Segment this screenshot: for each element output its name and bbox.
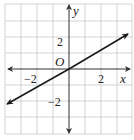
tick-label-x-pos: 2 xyxy=(98,72,104,86)
tick-label-y-neg: −2 xyxy=(48,95,61,109)
tick-label-y-pos: 2 xyxy=(57,35,63,49)
origin-label: O xyxy=(55,54,65,69)
y-axis-label: y xyxy=(71,3,79,18)
x-axis-label: x xyxy=(119,71,126,86)
tick-label-x-neg: −2 xyxy=(24,72,37,86)
coordinate-plane-graph: y x O 2 −2 2 −2 xyxy=(0,0,134,140)
plotted-line xyxy=(69,34,128,69)
